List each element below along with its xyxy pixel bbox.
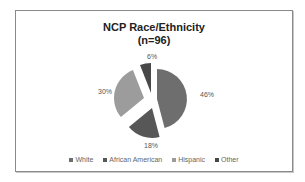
legend-label: Hispanic [178,156,205,163]
legend-swatch-hispanic [172,158,176,162]
legend-label: White [75,156,93,163]
legend-item-african-american: African American [103,156,162,163]
legend-swatch-african-american [103,158,107,162]
chart-legend: White African American Hispanic Other [16,156,292,163]
data-label-african-american: 18% [144,142,158,149]
pie-slice-hispanic [114,70,144,117]
pie-slice-african-american [129,108,160,138]
pie-slice-other [140,63,151,93]
data-label-other: 6% [147,53,157,60]
pie-slice-white [157,69,187,128]
legend-swatch-other [215,158,219,162]
legend-label: Other [221,156,239,163]
data-label-white: 46% [200,91,214,98]
legend-item-white: White [69,156,93,163]
legend-item-other: Other [215,156,239,163]
chart-area: NCP Race/Ethnicity (n=96) 46% 18% 30% 6%… [15,10,293,172]
data-label-hispanic: 30% [98,88,112,95]
legend-item-hispanic: Hispanic [172,156,205,163]
legend-label: African American [109,156,162,163]
legend-swatch-white [69,158,73,162]
